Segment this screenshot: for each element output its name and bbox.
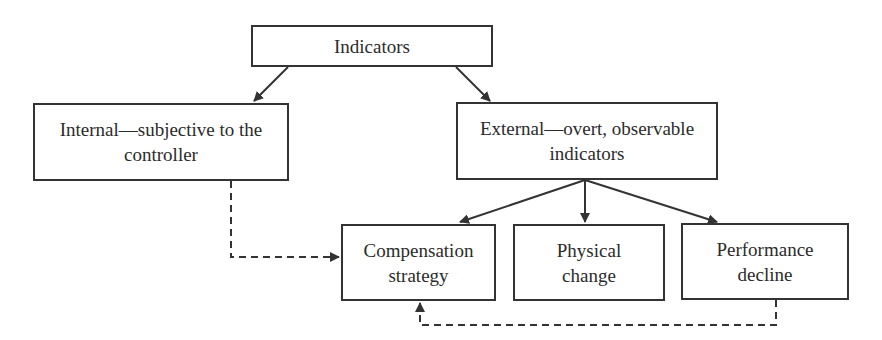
node-external-label: External—overt, observable indicators (470, 116, 704, 166)
edge-external-performance (585, 180, 717, 222)
edge-internal-compensation (231, 181, 339, 257)
node-performance-label: Performance decline (703, 237, 827, 287)
node-physical: Physical change (513, 224, 665, 301)
node-compensation-label: Compensation strategy (357, 238, 480, 288)
node-physical-label: Physical change (545, 238, 633, 288)
node-performance: Performance decline (681, 223, 849, 300)
edge-performance-compensation (420, 300, 776, 325)
node-external: External—overt, observable indicators (456, 102, 718, 180)
node-internal-label: Internal—subjective to the controller (45, 117, 277, 167)
edge-external-compensation (460, 180, 585, 222)
node-compensation: Compensation strategy (341, 224, 496, 301)
node-indicators-label: Indicators (334, 34, 410, 59)
node-internal: Internal—subjective to the controller (33, 103, 289, 181)
edge-indicators-external (456, 67, 490, 101)
edge-indicators-internal (254, 67, 288, 101)
node-indicators: Indicators (251, 25, 493, 67)
